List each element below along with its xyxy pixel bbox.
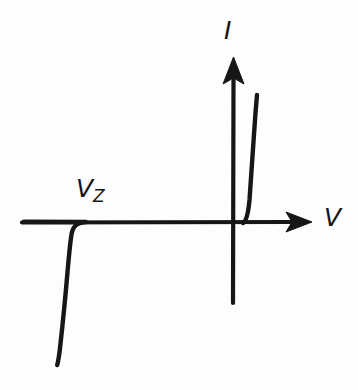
forward-conduction-curve bbox=[243, 95, 257, 223]
zener-voltage-label: VZ bbox=[76, 176, 105, 205]
zener-voltage-symbol: V bbox=[76, 174, 93, 203]
reverse-breakdown-curve bbox=[57, 222, 86, 365]
zener-voltage-subscript: Z bbox=[93, 186, 105, 206]
voltage-axis-label: V bbox=[324, 205, 341, 230]
current-axis-line bbox=[233, 80, 234, 303]
iv-curve-plot bbox=[0, 0, 358, 390]
iv-characteristic-figure: I V VZ bbox=[0, 0, 358, 390]
current-axis-label: I bbox=[224, 18, 231, 43]
